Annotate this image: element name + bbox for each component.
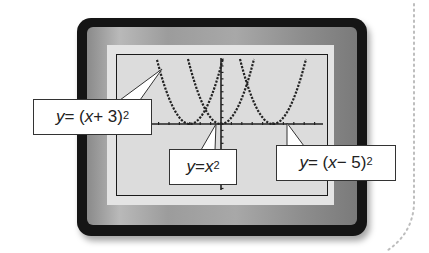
callout-label-x-plus-3: y = (x + 3)2: [33, 99, 152, 135]
callout-pointer-center: [201, 124, 216, 150]
callout-pointer-left: [120, 69, 162, 100]
callout-label-x-squared: y = x2: [169, 149, 237, 185]
callout-pointer-right: [287, 123, 304, 146]
parabola-2: [240, 59, 306, 124]
callout-label-x-minus-5: y = (x − 5)2: [276, 145, 396, 181]
